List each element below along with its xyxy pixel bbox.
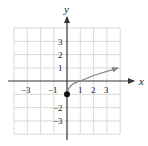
y-tick: 1 [58, 63, 63, 73]
x-tick: 1 [78, 85, 83, 95]
x-tick: −3 [21, 85, 31, 95]
y-tick: −2 [53, 103, 63, 113]
x-tick: 3 [104, 85, 109, 95]
y-tick: −3 [53, 116, 63, 126]
y-tick: 3 [58, 37, 63, 47]
function-graph: x y −3 −1 1 2 3 3 2 1 −2 −3 [0, 0, 148, 146]
y-tick: 2 [58, 50, 63, 60]
x-tick: −1 [48, 85, 58, 95]
y-axis-label: y [63, 3, 69, 15]
start-point [64, 91, 70, 97]
x-tick: 2 [91, 85, 96, 95]
x-axis-label: x [138, 75, 144, 87]
